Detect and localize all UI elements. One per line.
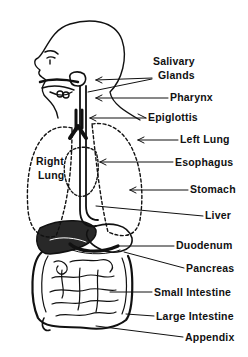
label-esophagus: Esophagus	[175, 157, 233, 168]
label-large-intestine: Large Intestine	[156, 311, 234, 322]
label-stomach: Stomach	[190, 184, 236, 195]
small-intestine	[50, 260, 118, 316]
label-pancreas: Pancreas	[186, 263, 234, 274]
left-lung	[92, 124, 142, 236]
label-duodenum: Duodenum	[176, 240, 232, 251]
label-right-lung-line1: Right	[36, 156, 64, 167]
label-right-lung-line2: Lung	[38, 170, 64, 181]
label-salivary-line1: Salivary	[153, 56, 195, 67]
label-left-lung: Left Lung	[180, 134, 230, 145]
label-epiglottis: Epiglottis	[148, 112, 198, 123]
label-pharynx: Pharynx	[170, 92, 213, 103]
label-salivary-line2: Glands	[158, 70, 195, 81]
label-appendix: Appendix	[185, 332, 234, 343]
label-liver: Liver	[205, 210, 231, 221]
digestive-system-diagram: Salivary Glands Pharynx Epiglottis Left …	[0, 0, 248, 357]
head-outline	[35, 21, 140, 120]
label-small-intestine: Small Intestine	[154, 287, 231, 298]
